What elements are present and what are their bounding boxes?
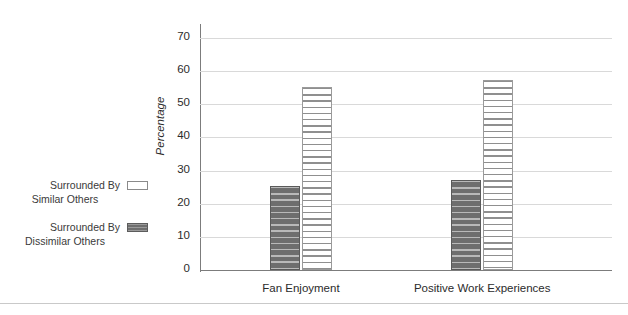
bar-fan-enjoyment-dissimilar <box>270 186 300 270</box>
y-tick-label-20: 20 <box>152 196 190 208</box>
gridline-10 <box>200 237 612 238</box>
y-tick-label-0: 0 <box>152 262 190 274</box>
legend-label-dissimilar-line1: Surrounded By <box>50 220 120 234</box>
x-category-label-positive-work-experiences: Positive Work Experiences <box>382 282 582 294</box>
legend-label-similar-line2: Similar Others <box>8 192 148 206</box>
gridline-40 <box>200 137 612 138</box>
bar-positive-work-experiences-similar <box>483 80 513 270</box>
legend-label-dissimilar-line2: Dissimilar Others <box>8 234 148 248</box>
legend-swatch-similar-others <box>127 181 148 190</box>
x-category-label-fan-enjoyment: Fan Enjoyment <box>201 282 401 294</box>
legend-label-similar-line1: Surrounded By <box>50 178 120 192</box>
bar-fan-enjoyment-similar <box>302 87 332 270</box>
y-tick-label-60: 60 <box>152 63 190 75</box>
x-axis-line <box>200 270 612 271</box>
legend-swatch-dissimilar-others <box>127 223 148 232</box>
bar-positive-work-experiences-dissimilar <box>451 180 481 270</box>
gridline-30 <box>200 171 612 172</box>
y-tick-label-40: 40 <box>152 129 190 141</box>
page-rule <box>0 303 628 304</box>
legend-item-dissimilar-others: Surrounded By Dissimilar Others <box>8 220 148 248</box>
y-tick-label-30: 30 <box>152 163 190 175</box>
gridline-50 <box>200 104 612 105</box>
gridline-70 <box>200 38 612 39</box>
legend-item-similar-others: Surrounded By Similar Others <box>8 178 148 206</box>
plot-area <box>200 26 612 270</box>
chart-legend: Surrounded By Similar Others Surrounded … <box>8 178 148 262</box>
y-tick-label-50: 50 <box>152 96 190 108</box>
y-tick-label-70: 70 <box>152 30 190 42</box>
bar-chart-figure: Surrounded By Similar Others Surrounded … <box>0 0 628 315</box>
gridline-60 <box>200 71 612 72</box>
y-tick-label-10: 10 <box>152 229 190 241</box>
gridline-20 <box>200 204 612 205</box>
